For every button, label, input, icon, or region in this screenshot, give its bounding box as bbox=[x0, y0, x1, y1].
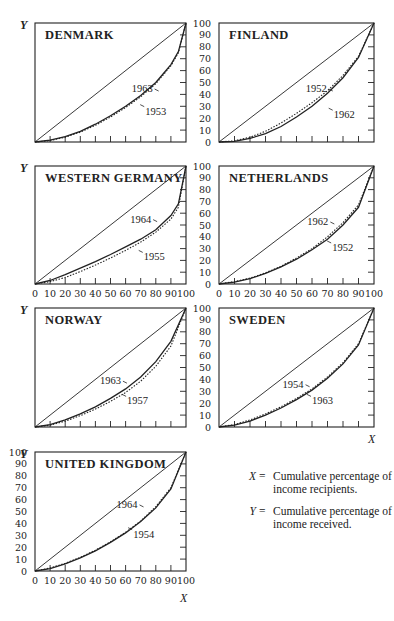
y-tick-label: 0 bbox=[205, 422, 211, 433]
x-tick-label: 10 bbox=[228, 288, 240, 299]
x-tick-label: 80 bbox=[150, 288, 162, 299]
y-tick-label: 30 bbox=[199, 243, 211, 254]
y-tick-label: 70 bbox=[199, 53, 211, 64]
series-annotation-1964: 1964 bbox=[130, 214, 152, 225]
x-tick-label: 80 bbox=[337, 288, 349, 299]
series-annotation-1957: 1957 bbox=[127, 395, 148, 406]
x-tick-label: 100 bbox=[177, 288, 195, 299]
x-tick-label: 10 bbox=[44, 575, 56, 586]
annotation-leader bbox=[122, 394, 126, 396]
series-annotation-1964: 1964 bbox=[117, 499, 139, 510]
legend-y-definition: Y = Cumulative percentage of income rece… bbox=[232, 505, 394, 531]
series-annotation-1952: 1952 bbox=[306, 83, 327, 94]
y-tick-label: 0 bbox=[205, 137, 211, 148]
y-tick-label: 0 bbox=[21, 566, 27, 577]
x-tick-label: 70 bbox=[321, 288, 333, 299]
series-annotation-1952: 1952 bbox=[332, 242, 353, 253]
panel-title: WESTERN GERMANY bbox=[45, 171, 183, 185]
x-tick-label: 100 bbox=[365, 288, 383, 299]
y-tick-label: 90 bbox=[199, 29, 211, 40]
y-tick-label: 60 bbox=[199, 350, 211, 361]
annotation-leader bbox=[140, 505, 144, 507]
y-tick-label: 70 bbox=[199, 196, 211, 207]
y-tick-label: 60 bbox=[199, 208, 211, 219]
x-tick-label: 50 bbox=[290, 288, 302, 299]
x-tick-label: 70 bbox=[135, 288, 147, 299]
y-axis-label: Y bbox=[20, 161, 29, 175]
panel-finland: 0102030405060708090100FINLAND19521962 bbox=[193, 18, 374, 148]
series-annotation-1955: 1955 bbox=[144, 251, 165, 262]
x-tick-label: 20 bbox=[244, 288, 256, 299]
x-tick-label: 50 bbox=[104, 575, 116, 586]
y-tick-label: 20 bbox=[199, 398, 211, 409]
x-tick-label: 60 bbox=[306, 288, 318, 299]
y-tick-label: 30 bbox=[199, 101, 211, 112]
annotation-leader bbox=[153, 220, 157, 222]
annotation-leader bbox=[140, 105, 144, 107]
legend-symbol: X bbox=[232, 470, 259, 496]
axis-legend: X = Cumulative percentage of income reci… bbox=[232, 470, 394, 540]
x-tick-label: 40 bbox=[275, 288, 287, 299]
y-tick-label: 80 bbox=[15, 470, 27, 481]
x-tick-label: 100 bbox=[177, 575, 195, 586]
panel-norway: NORWAY19631957Y bbox=[20, 303, 186, 427]
annotation-leader bbox=[327, 241, 331, 243]
x-tick-label: 0 bbox=[32, 288, 38, 299]
y-tick-label: 10 bbox=[199, 267, 211, 278]
panel-title: UNITED KINGDOM bbox=[45, 457, 166, 471]
x-tick-label: 10 bbox=[44, 288, 56, 299]
y-tick-label: 10 bbox=[15, 554, 27, 565]
y-tick-label: 90 bbox=[199, 314, 211, 325]
y-tick-label: 0 bbox=[205, 279, 211, 290]
y-tick-label: 50 bbox=[199, 362, 211, 373]
legend-text: Cumulative percentage of income recipien… bbox=[273, 470, 394, 496]
y-tick-label: 60 bbox=[15, 494, 27, 505]
series-annotation-1953: 1953 bbox=[145, 106, 166, 117]
panel-title: NETHERLANDS bbox=[229, 171, 329, 185]
y-tick-label: 60 bbox=[199, 65, 211, 76]
y-axis-label: Y bbox=[20, 447, 29, 461]
panel-united-kingdom: 0010102020303040405050606070708080909010… bbox=[9, 447, 195, 606]
x-tick-label: 70 bbox=[135, 575, 147, 586]
y-tick-label: 50 bbox=[199, 77, 211, 88]
x-tick-label: 80 bbox=[150, 575, 162, 586]
y-tick-label: 50 bbox=[15, 506, 27, 517]
y-axis-label: Y bbox=[20, 18, 29, 32]
x-tick-label: 40 bbox=[89, 575, 101, 586]
annotation-leader bbox=[306, 385, 310, 387]
x-tick-label: 50 bbox=[104, 288, 116, 299]
y-tick-label: 90 bbox=[199, 172, 211, 183]
y-tick-label: 30 bbox=[199, 386, 211, 397]
series-annotation-1963: 1963 bbox=[100, 375, 121, 386]
y-tick-label: 50 bbox=[199, 220, 211, 231]
y-tick-label: 70 bbox=[199, 338, 211, 349]
series-annotation-1962: 1962 bbox=[307, 216, 328, 227]
x-tick-label: 20 bbox=[59, 288, 71, 299]
x-axis-label: X bbox=[179, 591, 188, 605]
y-tick-label: 100 bbox=[193, 18, 211, 29]
y-tick-label: 40 bbox=[15, 518, 27, 529]
series-annotation-1963: 1963 bbox=[312, 395, 333, 406]
series-annotation-1954: 1954 bbox=[283, 379, 305, 390]
annotation-leader bbox=[155, 89, 159, 91]
y-tick-label: 40 bbox=[199, 374, 211, 385]
panel-sweden: 0102030405060708090100SWEDEN19541963X bbox=[193, 303, 376, 447]
x-tick-label: 30 bbox=[259, 288, 271, 299]
y-tick-label: 40 bbox=[199, 231, 211, 242]
x-axis-label: X bbox=[367, 432, 376, 446]
x-tick-label: 0 bbox=[216, 288, 222, 299]
annotation-leader bbox=[139, 250, 143, 252]
y-tick-label: 40 bbox=[199, 89, 211, 100]
y-tick-label: 100 bbox=[193, 161, 211, 172]
legend-text: Cumulative percentage of income received… bbox=[273, 505, 394, 531]
panel-denmark: DENMARK19631953Y bbox=[20, 18, 186, 142]
x-tick-label: 0 bbox=[32, 575, 38, 586]
y-tick-label: 10 bbox=[199, 125, 211, 136]
x-tick-label: 40 bbox=[89, 288, 101, 299]
y-tick-label: 30 bbox=[15, 530, 27, 541]
annotation-leader bbox=[307, 394, 311, 396]
y-axis-label: Y bbox=[20, 303, 29, 317]
panel-title: FINLAND bbox=[229, 28, 289, 42]
x-tick-label: 90 bbox=[165, 575, 177, 586]
y-tick-label: 20 bbox=[15, 542, 27, 553]
